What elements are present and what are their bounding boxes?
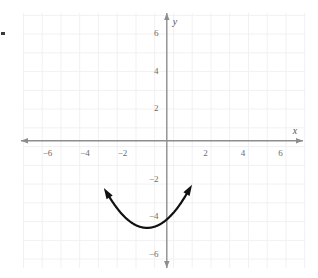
x-tick-label: −4 xyxy=(80,148,90,158)
y-tick-label: 2 xyxy=(154,103,159,113)
y-tick-label: −2 xyxy=(149,174,159,184)
y-tick-label: −6 xyxy=(149,249,159,259)
coordinate-plane: −6 −4 −2 2 4 6 6 4 2 −2 −4 −6 x y xyxy=(0,0,318,278)
x-axis xyxy=(21,138,303,144)
y-axis-label: y xyxy=(172,16,178,27)
x-tick-label: 2 xyxy=(203,148,208,158)
x-tick-label: −2 xyxy=(118,148,128,158)
x-tick-label: 4 xyxy=(241,148,246,158)
edge-artifact xyxy=(1,32,5,35)
y-tick-label: 4 xyxy=(154,66,159,76)
y-tick-label: 6 xyxy=(154,28,159,38)
x-tick-label: 6 xyxy=(278,148,283,158)
x-axis-label: x xyxy=(292,125,298,136)
graph-figure: −6 −4 −2 2 4 6 6 4 2 −2 −4 −6 x y xyxy=(0,0,318,278)
y-tick-label: −4 xyxy=(149,211,159,221)
x-tick-label: −6 xyxy=(43,148,53,158)
